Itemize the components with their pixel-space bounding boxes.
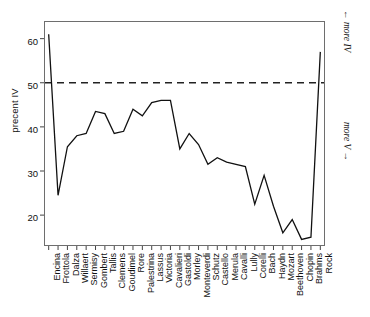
chart-root: precent IV 60 50 40 30 20 EncinaFrottola… bbox=[0, 0, 370, 317]
x-axis-label: Victoria bbox=[164, 253, 174, 283]
x-axis-label: Rock bbox=[324, 253, 334, 274]
y-tick-label: 40 bbox=[16, 125, 38, 135]
y-axis-tick-labels: 60 50 40 30 20 bbox=[14, 0, 38, 317]
y-tick-label: 20 bbox=[16, 213, 38, 223]
y-tick-label: 60 bbox=[16, 37, 38, 47]
x-axis-label: Bach bbox=[267, 253, 277, 274]
x-axis-label: Frottola bbox=[61, 253, 71, 284]
x-axis-label: Brahms bbox=[314, 253, 324, 284]
plot-area bbox=[44, 21, 325, 246]
x-axis-label: Cavalli bbox=[239, 253, 249, 280]
x-axis-label: Beethoven bbox=[295, 253, 305, 296]
x-axis-label: Clemens bbox=[117, 253, 127, 289]
x-axis-label: Sermisy bbox=[89, 253, 99, 286]
x-axis-label: Rore bbox=[136, 253, 146, 273]
annotation-more-v: more V → bbox=[342, 122, 352, 161]
y-tick-label: 50 bbox=[16, 81, 38, 91]
x-axis-label: Morley bbox=[192, 253, 202, 280]
x-axis-ticks bbox=[49, 246, 321, 250]
x-axis-label: Castello bbox=[220, 253, 230, 286]
y-tick-label: 30 bbox=[16, 169, 38, 179]
annotation-more-iv: ← more IV bbox=[342, 10, 352, 52]
